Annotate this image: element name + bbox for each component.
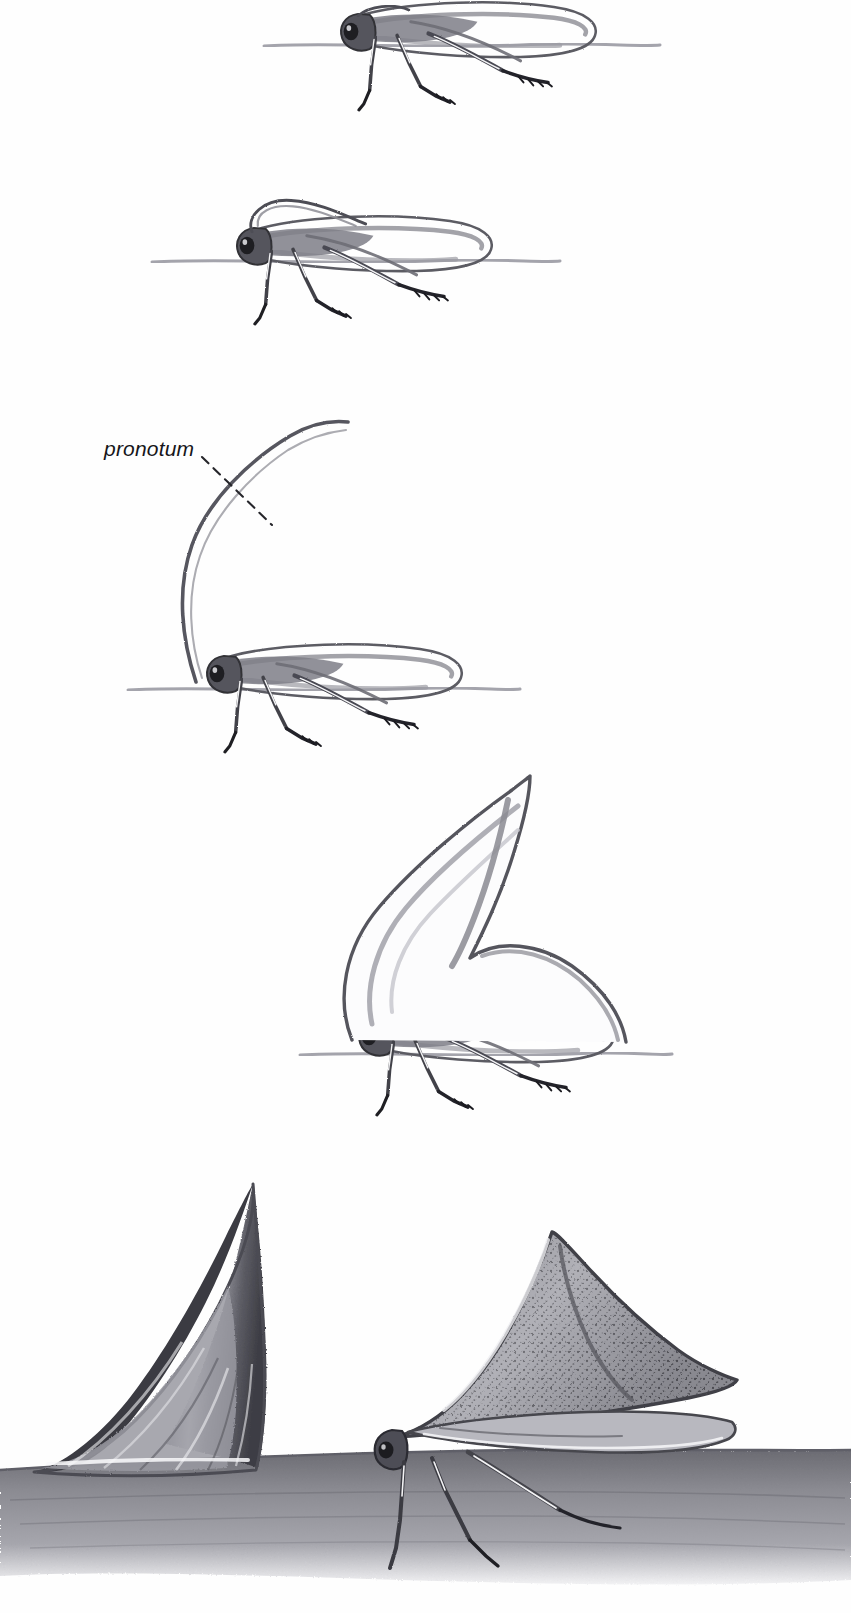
- stage-2-pronotum-inner: [258, 206, 356, 226]
- adult-pronotum-shading: [394, 1232, 736, 1436]
- stage-1-group: [264, 2, 660, 110]
- stage-3-group: [128, 422, 520, 752]
- bottom-scene-group: [0, 1184, 851, 1584]
- pencil-illustration-canvas: [0, 0, 851, 1613]
- stage-4-group: [300, 776, 672, 1115]
- stage-3-pronotum-inner: [191, 430, 346, 678]
- adult-eye-highlight: [381, 1444, 385, 1450]
- pronotum-label: pronotum: [104, 437, 194, 461]
- adult-eye: [379, 1442, 394, 1459]
- stage-4-pronotum: [344, 776, 626, 1042]
- stage-1-nymph: [341, 2, 596, 110]
- stage-3-pronotum: [182, 422, 348, 682]
- stage-2-group: [152, 200, 560, 324]
- stage-3-nymph: [207, 644, 462, 752]
- treehopper-development-figure: pronotum: [0, 0, 851, 1613]
- pronotum-leader-line: [202, 457, 272, 525]
